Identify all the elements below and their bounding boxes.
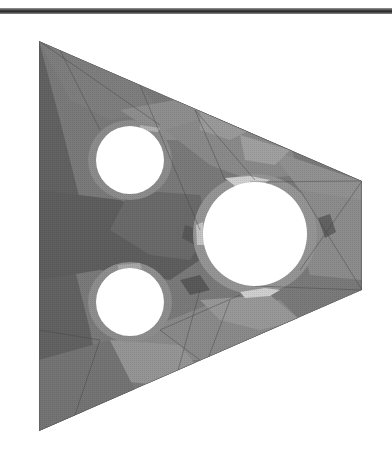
right-hole: [203, 182, 307, 286]
plate: [0, 0, 392, 457]
lower-left-hole: [96, 268, 164, 336]
upper-left-hole: [96, 126, 164, 194]
fea-contour-plot: [0, 0, 392, 457]
